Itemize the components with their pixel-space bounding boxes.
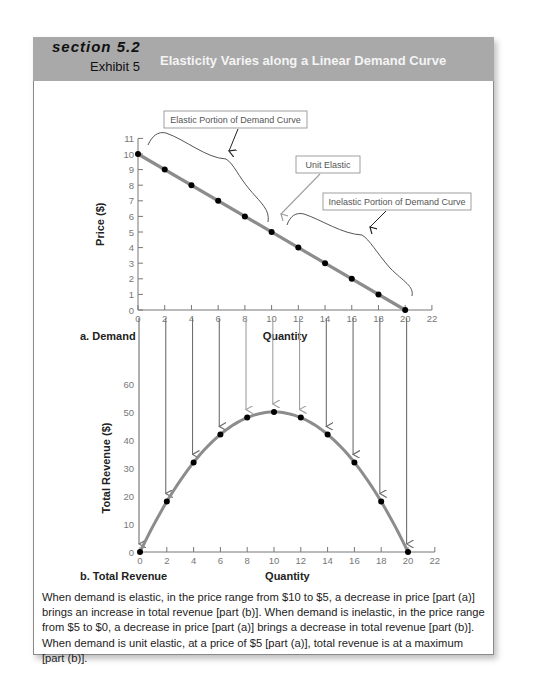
revenue-point: [378, 499, 384, 505]
y-tick-label: 10: [123, 519, 134, 530]
x-tick-label: 16: [346, 313, 357, 324]
revenue-panel-title: b. Total Revenue: [80, 570, 167, 582]
unit-elastic-arrow: [281, 174, 320, 214]
demand-point: [402, 307, 408, 313]
elastic-arrow: [229, 129, 238, 151]
demand-point: [242, 213, 248, 219]
revenue-point: [405, 549, 411, 555]
y-tick-label: 0: [129, 547, 134, 558]
y-tick-label: 4: [129, 242, 134, 253]
y-tick-label: 8: [129, 180, 134, 191]
x-tick-label: 8: [242, 313, 247, 324]
demand-point: [269, 229, 275, 235]
x-tick-label: 14: [322, 555, 333, 566]
y-tick-label: 5: [129, 227, 134, 238]
y-tick-label: 7: [129, 195, 134, 206]
x-tick-label: 10: [266, 313, 277, 324]
figure: 012345678910110246810121416182022Price (…: [0, 0, 548, 674]
revenue-point: [298, 415, 304, 421]
quantity-axis-label: Quantity: [263, 330, 308, 342]
demand-point: [188, 182, 194, 188]
y-tick-label: 9: [129, 164, 134, 175]
demand-point: [349, 276, 355, 282]
revenue-point: [164, 499, 170, 505]
x-tick-label: 4: [191, 555, 196, 566]
y-tick-label: 2: [129, 273, 134, 284]
x-tick-label: 20: [400, 313, 411, 324]
x-tick-label: 8: [245, 555, 250, 566]
demand-point: [375, 291, 381, 297]
y-tick-label: 0: [129, 305, 134, 316]
caption: When demand is elastic, in the price ran…: [42, 590, 488, 666]
y-tick-label: 50: [123, 407, 134, 418]
y-tick-label: 60: [123, 379, 134, 390]
y-tick-label: 1: [129, 289, 134, 300]
demand-panel-title: a. Demand: [80, 330, 136, 342]
demand-point: [135, 151, 141, 157]
x-tick-label: 6: [218, 555, 223, 566]
y-tick-label: 3: [129, 258, 134, 269]
total-revenue-curve: [140, 412, 408, 552]
x-tick-label: 14: [320, 313, 331, 324]
x-tick-label: 2: [162, 313, 167, 324]
quantity-axis-label: Quantity: [265, 570, 310, 582]
y-tick-label: 40: [123, 435, 134, 446]
x-tick-label: 16: [349, 555, 360, 566]
revenue-point: [137, 549, 143, 555]
elastic-annotation-label: Elastic Portion of Demand Curve: [170, 115, 301, 125]
x-tick-label: 0: [135, 313, 140, 324]
y-tick-label: 10: [123, 149, 134, 160]
x-tick-label: 18: [376, 555, 387, 566]
x-tick-label: 4: [189, 313, 194, 324]
revenue-point: [191, 459, 197, 465]
x-tick-label: 12: [296, 555, 307, 566]
x-tick-label: 6: [216, 313, 221, 324]
demand-point: [322, 260, 328, 266]
y-tick-label: 20: [123, 491, 134, 502]
price-axis-label: Price ($): [94, 202, 106, 246]
x-tick-label: 12: [293, 313, 304, 324]
x-tick-label: 22: [430, 555, 441, 566]
revenue-point: [325, 431, 331, 437]
elastic-bracket: [148, 133, 268, 222]
x-tick-label: 10: [269, 555, 280, 566]
revenue-point: [244, 415, 250, 421]
y-tick-label: 30: [123, 463, 134, 474]
inelastic-bracket: [287, 213, 412, 296]
x-tick-label: 18: [373, 313, 384, 324]
x-tick-label: 22: [427, 313, 438, 324]
revenue-point: [217, 431, 223, 437]
y-tick-label: 11: [124, 133, 134, 144]
x-tick-label: 2: [164, 555, 169, 566]
x-tick-label: 20: [403, 555, 414, 566]
revenue-point: [271, 409, 277, 415]
y-tick-label: 6: [129, 211, 134, 222]
inelastic-annotation-label: Inelastic Portion of Demand Curve: [328, 197, 465, 207]
revenue-point: [351, 459, 357, 465]
demand-point: [215, 198, 221, 204]
unit-elastic-annotation-label: Unit Elastic: [305, 160, 351, 170]
total-revenue-axis-label: Total Revenue ($): [100, 422, 112, 513]
demand-point: [162, 167, 168, 173]
x-tick-label: 0: [137, 555, 142, 566]
inelastic-arrow: [370, 211, 386, 227]
demand-point: [295, 245, 301, 251]
